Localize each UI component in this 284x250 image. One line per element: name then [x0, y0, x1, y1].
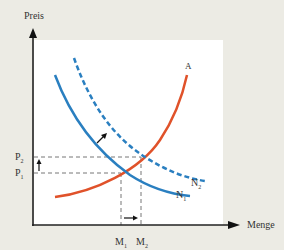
x-axis-label: Menge [247, 219, 275, 230]
x-axis-arrow-icon [228, 221, 240, 229]
y-axis-label: Preis [24, 10, 44, 21]
m1-label: M1 [115, 236, 127, 249]
plot-panel [34, 40, 223, 225]
m2-label: M2 [136, 236, 148, 249]
p1-label: P1 [15, 167, 24, 180]
p2-label: P2 [15, 151, 24, 164]
supply-label: A [185, 61, 192, 71]
supply-demand-chart: Preis Menge A N2 N1 P2 P1 M1 M2 [0, 0, 284, 250]
y-axis-arrow-icon [29, 28, 37, 38]
